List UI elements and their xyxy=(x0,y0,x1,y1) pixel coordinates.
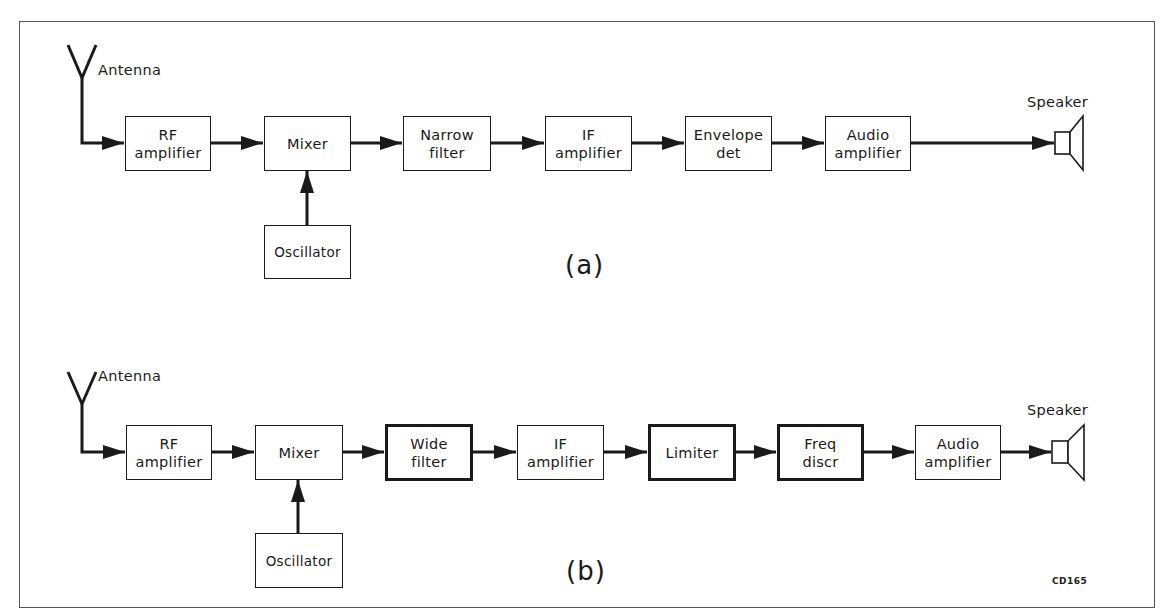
block-label: det xyxy=(694,144,763,162)
block-oscillator-b: Oscillator xyxy=(255,533,343,588)
antenna-icon-b xyxy=(68,372,96,404)
panel-label-a: (a) xyxy=(565,250,604,280)
block-label: amplifier xyxy=(527,453,594,471)
panel-label-b: (b) xyxy=(566,556,606,586)
block-narrow-filter-a: Narrowfilter xyxy=(403,116,491,171)
block-oscillator-a: Oscillator xyxy=(264,225,351,279)
block-label: Wide xyxy=(410,435,447,453)
block-label: IF xyxy=(555,126,622,144)
signal-flow-wires xyxy=(0,0,1163,615)
block-label: filter xyxy=(420,144,474,162)
speaker-icon-b xyxy=(1052,425,1084,480)
block-envelope-det-a: Envelopedet xyxy=(685,116,772,171)
block-label: Oscillator xyxy=(274,243,341,261)
block-label: RF xyxy=(136,435,203,453)
block-label: Limiter xyxy=(666,444,719,462)
block-if-amplifier-a: IFamplifier xyxy=(545,116,632,171)
block-label: Mixer xyxy=(278,444,319,462)
block-label: filter xyxy=(410,453,447,471)
block-label: RF xyxy=(135,126,202,144)
block-audio-amplifier-a: Audioamplifier xyxy=(825,116,911,171)
block-rf-amplifier-b: RFamplifier xyxy=(126,425,212,480)
block-label: Oscillator xyxy=(266,552,333,570)
block-label: amplifier xyxy=(135,144,202,162)
speaker-icon-a xyxy=(1055,116,1083,170)
block-label: amplifier xyxy=(925,453,992,471)
antenna-label-b: Antenna xyxy=(98,368,161,384)
block-label: Mixer xyxy=(287,135,328,153)
antenna-label-a: Antenna xyxy=(98,62,161,78)
block-label: amplifier xyxy=(555,144,622,162)
block-mixer-b: Mixer xyxy=(255,425,343,480)
block-label: amplifier xyxy=(835,144,902,162)
block-label: amplifier xyxy=(136,453,203,471)
antenna-icon-a xyxy=(68,45,96,78)
block-label: Audio xyxy=(925,435,992,453)
block-label: discr xyxy=(802,453,838,471)
block-freq-discr-b: Freqdiscr xyxy=(777,424,864,481)
block-if-amplifier-b: IFamplifier xyxy=(517,425,604,480)
block-rf-amplifier-a: RFamplifier xyxy=(125,116,211,171)
block-audio-amplifier-b: Audioamplifier xyxy=(915,425,1001,480)
speaker-label-b: Speaker xyxy=(1027,402,1088,418)
block-label: Envelope xyxy=(694,126,763,144)
block-label: Narrow xyxy=(420,126,474,144)
block-label: Freq xyxy=(802,435,838,453)
block-mixer-a: Mixer xyxy=(264,116,351,171)
figure-code: CD165 xyxy=(1052,576,1087,586)
block-limiter-b: Limiter xyxy=(648,424,736,481)
block-label: Audio xyxy=(835,126,902,144)
speaker-label-a: Speaker xyxy=(1027,94,1088,110)
block-label: IF xyxy=(527,435,594,453)
block-wide-filter-b: Widefilter xyxy=(385,424,473,481)
